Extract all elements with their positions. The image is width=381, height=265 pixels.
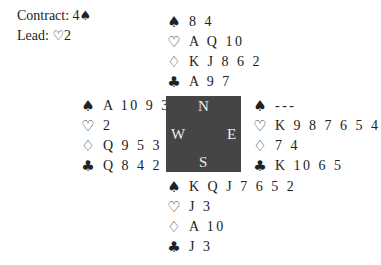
club-icon: ♣ (81, 156, 95, 176)
east-clubs-cards: K 10 6 5 (275, 156, 344, 176)
heart-icon: ♡ (52, 28, 64, 43)
spade-icon: ♠ (167, 12, 181, 32)
diamond-icon: ♢ (253, 136, 267, 156)
club-icon: ♣ (167, 237, 181, 257)
compass-north: N (198, 98, 209, 114)
east-diamonds-cards: 7 4 (275, 136, 300, 156)
diamond-icon: ♢ (167, 217, 181, 237)
diamond-icon: ♢ (81, 136, 95, 156)
north-hearts-cards: A Q 10 (189, 32, 244, 52)
west-spades-cards: A 10 9 3 (103, 96, 171, 116)
compass-south: S (199, 154, 207, 170)
north-diamonds-cards: K J 8 6 2 (189, 52, 262, 72)
club-icon: ♣ (253, 156, 267, 176)
diamond-icon: ♢ (167, 52, 181, 72)
heart-icon: ♡ (81, 116, 95, 136)
compass-table: N W E S (166, 96, 241, 172)
south-spades-cards: K Q J 7 6 5 2 (189, 177, 296, 197)
lead-card: 2 (64, 28, 71, 43)
west-hearts-cards: 2 (103, 116, 113, 136)
heart-icon: ♡ (253, 116, 267, 136)
south-clubs-cards: J 3 (189, 237, 212, 257)
compass-west: W (171, 126, 185, 142)
heart-icon: ♡ (167, 32, 181, 52)
spade-icon: ♠ (253, 96, 267, 116)
compass-east: E (227, 126, 236, 142)
east-hearts-cards: K 9 8 7 6 5 4 (275, 116, 381, 136)
lead-line: Lead: ♡2 (17, 26, 91, 46)
contract-line: Contract: 4♠ (17, 6, 91, 26)
lead-label: Lead: (17, 28, 52, 43)
west-diamonds-cards: Q 9 5 3 (103, 136, 162, 156)
north-clubs-cards: A 9 7 (189, 72, 232, 92)
east-spades-cards: --- (275, 96, 297, 116)
heart-icon: ♡ (167, 197, 181, 217)
contract-label: Contract: 4 (17, 8, 80, 23)
spade-icon: ♠ (80, 8, 92, 23)
spade-icon: ♠ (167, 177, 181, 197)
south-diamonds-cards: A 10 (189, 217, 226, 237)
north-spades-cards: 8 4 (189, 12, 214, 32)
club-icon: ♣ (167, 72, 181, 92)
west-clubs-cards: Q 8 4 2 (103, 156, 162, 176)
spade-icon: ♠ (81, 96, 95, 116)
south-hearts-cards: J 3 (189, 197, 212, 217)
contract-info: Contract: 4♠ Lead: ♡2 (17, 6, 91, 46)
